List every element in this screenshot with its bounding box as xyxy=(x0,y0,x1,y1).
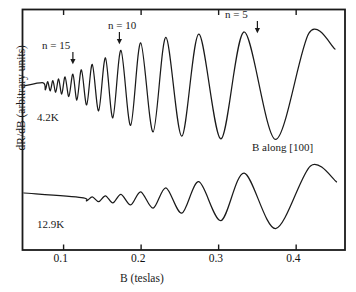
x-tick-label: 0.4 xyxy=(286,252,300,264)
annotation-n-5: n = 5 xyxy=(225,9,248,20)
x-axis-label: B (teslas) xyxy=(120,273,164,285)
x-tick-label: 0.1 xyxy=(54,252,68,264)
annotation-n-10: n = 10 xyxy=(108,20,136,31)
annotation-temperature-upper: 4.2K xyxy=(37,112,59,123)
annotation-temperature-lower: 12.9K xyxy=(37,219,64,230)
figure-plot: dR/dB (arbitrary units) B (teslas) n = 1… xyxy=(0,0,356,292)
y-axis-label: dR/dB (arbitrary units) xyxy=(16,18,28,178)
annotation-field-orientation: B along [100] xyxy=(252,142,313,153)
x-tick-label: 0.2 xyxy=(131,252,145,264)
x-tick-label: 0.3 xyxy=(209,252,223,264)
annotation-n-15: n = 15 xyxy=(42,40,70,51)
